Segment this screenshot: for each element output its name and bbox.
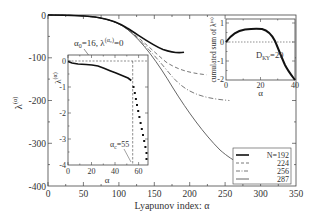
y-tick-label: -200 [29,96,47,106]
x-tick-label: 250 [218,189,233,199]
main-y-tick-labels: 0 -100 -200 -300 -400 [29,11,47,192]
inset-x-tick-label: 20 [88,167,96,176]
y-tick-label: -100 [29,53,47,63]
inset-y-tick-label: -2 [217,75,224,84]
left-inset-y-tick-labels: 0 -1 -2 -3 -4 [59,57,66,170]
inset-x-tick-label: 60 [135,167,143,176]
inset-x-tick-label: 40 [111,167,119,176]
inset-y-tick-label: -1 [217,57,224,66]
inset-x-tick-label: 0 [66,167,70,176]
dky-annotation: DKY=29 [256,50,283,61]
y-tick-label: -300 [29,139,47,149]
inset-x-tick-label: 0 [224,81,228,90]
left-inset-x-label: α [105,175,110,185]
svg-text:λ(α): λ(α) [11,96,24,109]
inset-y-tick-label: -3 [59,135,66,144]
right-inset-x-label: α [258,88,263,98]
main-x-tick-labels: 0 50 100 150 200 250 300 350 [46,189,304,199]
x-tick-label: 350 [289,189,304,199]
svg-text:λ(α): λ(α) [52,72,63,84]
svg-text:cumulated sum of λ(α): cumulated sum of λ(α) [209,17,218,83]
inset-x-tick-label: 40 [291,81,299,90]
x-tick-label: 200 [183,189,198,199]
left-inset-frame [68,55,148,165]
y-tick-label: -400 [29,182,47,192]
inset-y-tick-label: 0 [220,38,224,47]
inset-y-tick-label: -2 [59,109,66,118]
right-inset-y-tick-labels: 1 0 -1 -2 [217,19,224,84]
legend-label: 287 [277,175,289,184]
x-tick-label: 100 [112,189,127,199]
x-tick-label: 150 [147,189,162,199]
inset-y-tick-label: -4 [59,161,66,170]
x-tick-label: 0 [46,189,51,199]
inset-y-tick-label: 0 [62,57,66,66]
legend: N=192 224 256 287 [233,148,291,184]
x-tick-label: 50 [79,189,89,199]
x-tick-label: 300 [253,189,268,199]
left-inset: 0 -1 -2 -3 -4 0 20 40 60 α λ(α) [52,55,148,185]
right-inset-y-label: cumulated sum of λ(α) [209,17,218,83]
y-axis-label: λ(α) [11,96,24,109]
inset-y-tick-label: 1 [220,19,224,28]
y-axis-label-sup: (α) [11,96,19,104]
alphac-annotation: αc=55 [110,140,129,150]
y-tick-label: 0 [41,11,46,21]
right-inset: 1 0 -1 -2 0 20 40 α cumulated sum of λ(α… [209,17,299,98]
figure: 0 50 100 150 200 250 300 350 0 -100 -200… [0,0,316,216]
left-inset-y-label: λ(α) [52,72,63,84]
x-axis-label: Lyapunov index: α [134,200,210,211]
alpha0-annotation: α0=16, λ(α₀)=0 [74,37,124,49]
